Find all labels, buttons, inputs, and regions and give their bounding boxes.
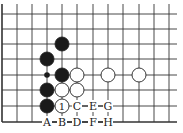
point-label-A: A <box>42 116 52 129</box>
point-label-F: F <box>89 116 97 129</box>
point-label-D: D <box>73 116 82 129</box>
white-stone <box>70 83 84 97</box>
black-stone <box>55 68 69 82</box>
white-stone <box>101 68 115 82</box>
point-label-B: B <box>58 116 66 129</box>
point-label-C: C <box>73 100 81 113</box>
point-label-E: E <box>89 100 97 113</box>
black-stone <box>55 37 69 51</box>
point-label-G: G <box>104 100 113 113</box>
white-stone <box>70 68 84 82</box>
white-stone <box>132 68 146 82</box>
black-stone <box>40 52 54 66</box>
star-point-marker <box>44 72 50 78</box>
point-label-H: H <box>103 116 113 129</box>
black-stone <box>40 99 54 113</box>
move-number-label: 1 <box>59 101 65 112</box>
board-svg: CEGABDFH1 <box>0 0 183 133</box>
black-stone <box>40 83 54 97</box>
go-board-diagram: CEGABDFH1 <box>0 0 183 133</box>
white-stone <box>55 83 69 97</box>
